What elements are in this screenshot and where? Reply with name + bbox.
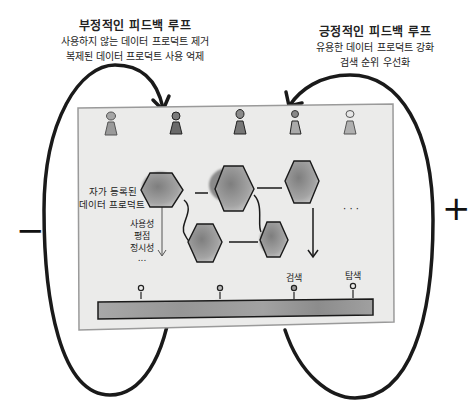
minus-sign: − (16, 210, 45, 250)
positive-loop-line-1: 유용한 데이터 프로덕트 강화 (290, 40, 460, 55)
attribute-more: ... (128, 252, 156, 265)
self-registered-label-line-2: 데이터 프로덕트 (76, 198, 148, 211)
positive-loop-title: 긍정적인 피드백 루프 (290, 22, 460, 39)
positive-loop-line-2: 검색 순위 우선화 (290, 55, 460, 70)
bar-label-explore: 탐색 (339, 270, 367, 283)
plus-sign: + (442, 188, 471, 228)
negative-loop-line-2: 복제된 데이터 프로덕트 사용 억제 (30, 49, 240, 64)
data-platform-panel (78, 104, 394, 330)
negative-loop-title: 부정적인 피드백 루프 (50, 16, 220, 33)
bar-label-search: 검색 (280, 272, 308, 285)
self-registered-label-line-1: 자가 등록된 (78, 185, 148, 198)
negative-loop-line-1: 사용하지 않는 데이터 프로덕트 제거 (30, 34, 240, 49)
more-products-ellipsis: · · · (336, 202, 366, 215)
